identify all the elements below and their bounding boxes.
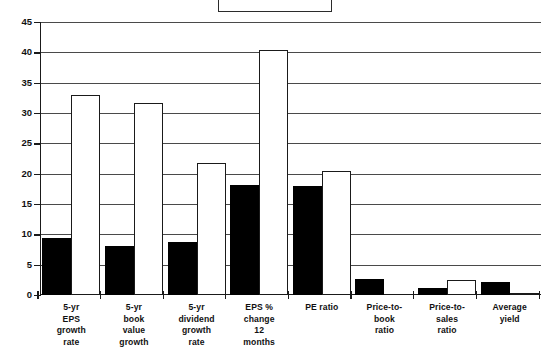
category-label-line: Price-to-: [416, 302, 479, 314]
category-label-line: growth: [165, 325, 228, 337]
bar-series-dark-2: [168, 242, 197, 295]
y-axis-labels: 051015202530354045: [0, 0, 32, 357]
bar-series-dark-7: [481, 282, 510, 295]
y-tick-label-15: 15: [6, 199, 32, 209]
category-label-0: 5-yrEPSgrowthrate: [40, 302, 103, 348]
category-label-line: EPS %: [228, 302, 291, 314]
category-label-6: Price-to-salesratio: [416, 302, 479, 337]
category-label-line: ratio: [416, 325, 479, 337]
y-tick-label-20: 20: [6, 169, 32, 179]
category-label-line: value: [103, 325, 166, 337]
category-label-line: rate: [165, 337, 228, 349]
category-label-2: 5-yrdividendgrowthrate: [165, 302, 228, 348]
bar-series-light-6: [447, 280, 476, 295]
bar-chart: 051015202530354045 5-yrEPSgrowthrate5-yr…: [0, 0, 547, 357]
bars-layer: [40, 22, 541, 295]
legend-box: [218, 0, 332, 12]
y-tick-label-40: 40: [6, 48, 32, 58]
category-label-line: 5-yr: [165, 302, 228, 314]
y-tick-label-25: 25: [6, 139, 32, 149]
bar-series-dark-3: [230, 185, 259, 295]
x-tick-end: [539, 291, 540, 299]
category-label-line: growth: [40, 325, 103, 337]
x-tick-7: [476, 291, 477, 299]
category-label-line: growth: [103, 337, 166, 349]
bar-series-light-7: [510, 293, 539, 295]
x-tick-6: [413, 291, 414, 299]
category-label-line: dividend: [165, 314, 228, 326]
x-tick-5: [350, 291, 351, 299]
category-label-line: 12: [228, 325, 291, 337]
category-label-4: PE ratio: [291, 302, 354, 314]
y-tick-label-5: 5: [6, 260, 32, 270]
category-label-line: sales: [416, 314, 479, 326]
category-label-line: months: [228, 337, 291, 349]
x-tick-4: [288, 291, 289, 299]
bar-series-light-4: [322, 171, 351, 295]
category-label-line: ratio: [353, 325, 416, 337]
bar-series-light-2: [197, 163, 226, 295]
category-label-line: book: [353, 314, 416, 326]
category-label-line: Price-to-: [353, 302, 416, 314]
bar-series-light-3: [259, 50, 288, 295]
bar-series-dark-1: [105, 246, 134, 295]
category-label-line: book: [103, 314, 166, 326]
y-tick-label-45: 45: [6, 17, 32, 27]
y-tick-label-10: 10: [6, 230, 32, 240]
bar-series-dark-0: [42, 238, 71, 295]
category-label-line: change: [228, 314, 291, 326]
category-label-line: Average: [478, 302, 541, 314]
y-tick-label-35: 35: [6, 78, 32, 88]
bar-series-light-1: [134, 103, 163, 295]
category-label-1: 5-yrbookvaluegrowth: [103, 302, 166, 348]
y-tick-label-0: 0: [6, 290, 32, 300]
bar-series-dark-4: [293, 186, 322, 295]
category-label-line: 5-yr: [40, 302, 103, 314]
category-label-line: rate: [40, 337, 103, 349]
y-tick-label-30: 30: [6, 108, 32, 118]
category-label-5: Price-to-bookratio: [353, 302, 416, 337]
category-label-line: EPS: [40, 314, 103, 326]
x-tick-0: [37, 291, 38, 299]
bar-series-light-0: [71, 95, 100, 295]
bar-series-dark-5: [355, 279, 384, 295]
category-label-7: Averageyield: [478, 302, 541, 325]
category-label-line: 5-yr: [103, 302, 166, 314]
category-label-line: yield: [478, 314, 541, 326]
category-label-3: EPS %change12months: [228, 302, 291, 348]
x-tick-1: [100, 291, 101, 299]
x-tick-3: [225, 291, 226, 299]
x-tick-2: [163, 291, 164, 299]
bar-series-dark-6: [418, 288, 447, 295]
category-label-line: PE ratio: [291, 302, 354, 314]
